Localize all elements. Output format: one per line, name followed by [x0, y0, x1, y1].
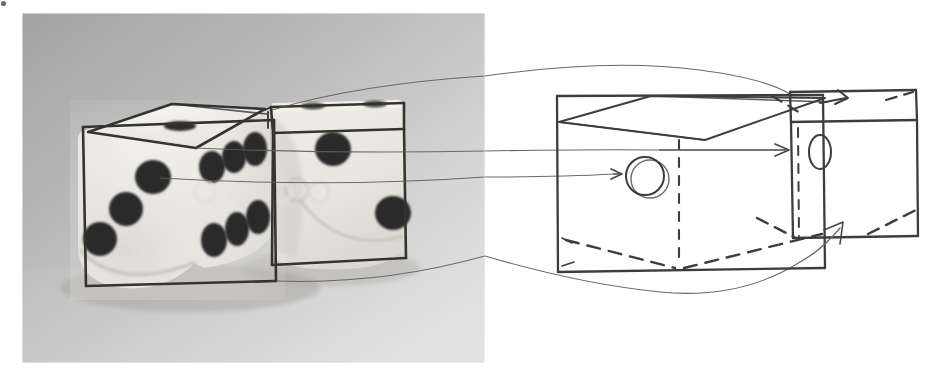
left-cube-edge-left [557, 96, 558, 272]
photo-panel [22, 13, 485, 363]
figure-root: Dice photograph with hand-drawn cube wir… [0, 0, 940, 382]
photo-grain [22, 13, 485, 363]
corner-speck [1, 1, 6, 6]
figure-canvas [0, 0, 940, 382]
diagram-background [485, 0, 940, 382]
right-cube-edge-right [917, 120, 918, 236]
right-cube-band-right [916, 90, 917, 120]
diagram-panel [485, 0, 940, 382]
